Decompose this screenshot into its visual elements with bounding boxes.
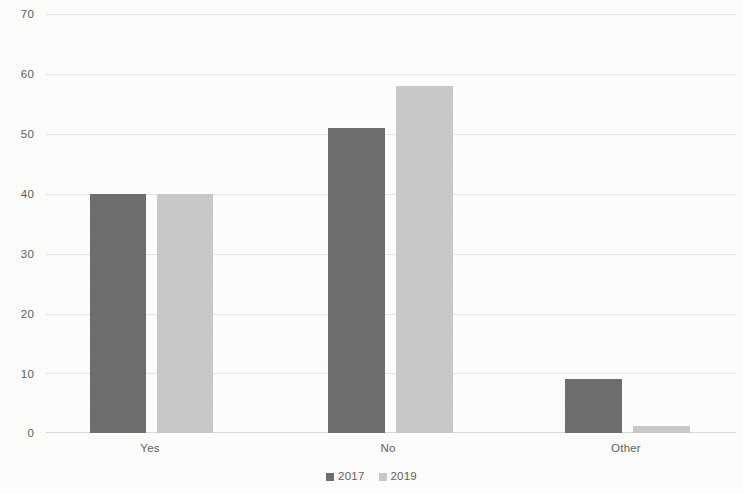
bar-no-2017[interactable] — [328, 128, 385, 433]
y-axis-tick-20: 20 — [0, 308, 34, 320]
bar-group-no — [328, 14, 495, 433]
legend-swatch-2019-icon — [379, 473, 387, 481]
bar-yes-2017[interactable] — [90, 194, 146, 433]
bar-yes-2019[interactable] — [157, 194, 213, 433]
bar-other-2017[interactable] — [565, 379, 622, 433]
y-axis-tick-0: 0 — [0, 427, 34, 439]
y-axis-tick-40: 40 — [0, 188, 34, 200]
legend-item-2017[interactable]: 2017 — [326, 470, 364, 483]
y-axis-tick-10: 10 — [0, 368, 34, 380]
y-axis-tick-60: 60 — [0, 68, 34, 80]
bar-other-2019[interactable] — [633, 426, 690, 433]
x-axis-label-no: No — [328, 441, 448, 455]
legend-label-2019: 2019 — [391, 470, 417, 483]
x-axis-label-yes: Yes — [90, 441, 210, 455]
legend-label-2017: 2017 — [338, 470, 364, 483]
legend-swatch-2017-icon — [326, 473, 334, 481]
y-axis-tick-70: 70 — [0, 8, 34, 20]
legend-item-2019[interactable]: 2019 — [379, 470, 417, 483]
y-axis-tick-50: 50 — [0, 128, 34, 140]
bar-group-yes — [90, 14, 257, 433]
bar-no-2019[interactable] — [396, 86, 453, 433]
x-axis-label-other: Other — [566, 441, 686, 455]
y-axis-tick-30: 30 — [0, 248, 34, 260]
chart-legend: 2017 2019 — [0, 470, 743, 483]
bar-group-other — [565, 14, 732, 433]
plot-area — [46, 14, 736, 433]
bar-chart: 70 60 50 40 30 20 10 0 — [0, 0, 743, 493]
